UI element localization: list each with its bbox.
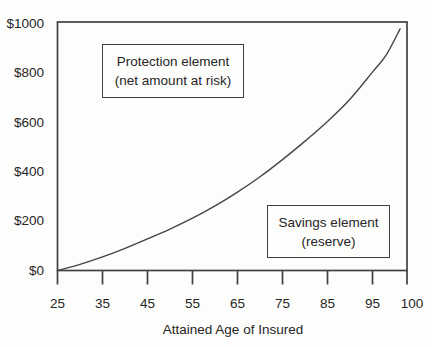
x-tick-label-100: 100 (395, 296, 429, 312)
x-tick-label-85: 85 (311, 296, 345, 312)
x-tick-label-45: 45 (131, 296, 165, 312)
x-axis-title: Attained Age of Insured (58, 322, 408, 337)
x-tick-label-65: 65 (221, 296, 255, 312)
x-tick-label-95: 95 (356, 296, 390, 312)
y-tick-label-400: $400 (0, 164, 44, 180)
y-tick-label-1000: $1000 (0, 16, 44, 32)
y-tick-label-800: $800 (0, 65, 44, 81)
savings-element-label: Savings element (279, 213, 379, 232)
x-tick-label-25: 25 (41, 296, 75, 312)
x-tick-label-35: 35 (86, 296, 120, 312)
savings-element-sublabel: (reserve) (301, 232, 355, 251)
whole-life-insurance-chart: $0$200$400$600$800$1000 2535455565758595… (0, 0, 432, 347)
y-tick-label-200: $200 (0, 213, 44, 229)
protection-element-annotation-box: Protection element (net amount at risk) (102, 44, 244, 98)
protection-element-sublabel: (net amount at risk) (115, 71, 231, 90)
protection-element-label: Protection element (117, 52, 230, 71)
x-tick-label-55: 55 (176, 296, 210, 312)
y-tick-label-600: $600 (0, 115, 44, 131)
savings-element-annotation-box: Savings element (reserve) (267, 205, 390, 258)
x-tick-label-75: 75 (266, 296, 300, 312)
y-tick-label-0: $0 (0, 263, 44, 279)
